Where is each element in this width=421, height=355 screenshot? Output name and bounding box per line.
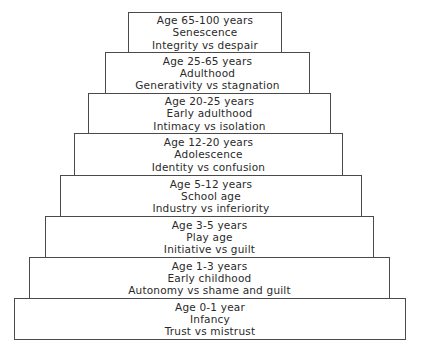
tier-age: Age 3-5 years xyxy=(172,219,248,231)
tier-stage: Early adulthood xyxy=(167,107,253,119)
tier-conflict: Initiative vs guilt xyxy=(164,243,255,255)
tier-age: Age 12-20 years xyxy=(164,136,253,148)
tier-conflict: Industry vs inferiority xyxy=(152,202,269,214)
tier-age: Age 65-100 years xyxy=(157,14,253,26)
tier-conflict: Integrity vs despair xyxy=(152,39,258,51)
tier-adulthood: Age 25-65 years Adulthood Generativity v… xyxy=(105,52,310,94)
tier-play-age: Age 3-5 years Play age Initiative vs gui… xyxy=(45,216,374,258)
tier-age: Age 0-1 year xyxy=(175,301,245,313)
tier-conflict: Intimacy vs isolation xyxy=(153,120,265,132)
tier-stage: Adolescence xyxy=(174,148,242,160)
tier-stage: Infancy xyxy=(190,313,230,325)
tier-school-age: Age 5-12 years School age Industry vs in… xyxy=(60,175,362,217)
tier-infancy: Age 0-1 year Infancy Trust vs mistrust xyxy=(14,298,406,340)
tier-stage: School age xyxy=(181,190,241,202)
tier-early-childhood: Age 1-3 years Early childhood Autonomy v… xyxy=(29,257,390,299)
tier-conflict: Autonomy vs shame and guilt xyxy=(128,284,291,296)
tier-senescence: Age 65-100 years Senescence Integrity vs… xyxy=(128,12,282,53)
tier-age: Age 5-12 years xyxy=(170,178,253,190)
tier-early-adulthood: Age 20-25 years Early adulthood Intimacy… xyxy=(88,93,331,134)
tier-conflict: Generativity vs stagnation xyxy=(135,79,279,91)
tier-age: Age 25-65 years xyxy=(163,55,252,67)
tier-age: Age 20-25 years xyxy=(165,95,254,107)
tier-age: Age 1-3 years xyxy=(172,260,248,272)
tier-stage: Senescence xyxy=(173,26,238,38)
tier-stage: Play age xyxy=(186,231,232,243)
tier-stage: Adulthood xyxy=(180,67,235,79)
tier-adolescence: Age 12-20 years Adolescence Identity vs … xyxy=(74,133,343,176)
tier-stage: Early childhood xyxy=(168,272,252,284)
psychosocial-stages-pyramid: Age 65-100 years Senescence Integrity vs… xyxy=(0,0,421,355)
tier-conflict: Identity vs confusion xyxy=(152,161,265,173)
tier-conflict: Trust vs mistrust xyxy=(165,325,255,337)
